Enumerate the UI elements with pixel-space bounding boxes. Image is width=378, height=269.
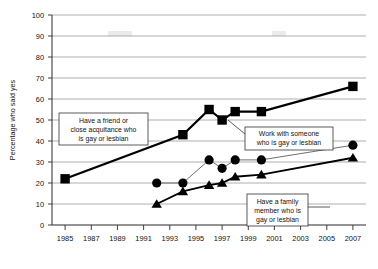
callout-friend-line-1: Have a friend or bbox=[79, 117, 129, 124]
callout-friend-acquaintance: Have a friend or close acquitance who is… bbox=[59, 113, 148, 145]
callout-family-line-2: member who is bbox=[254, 207, 301, 214]
x-tick-label: 1997 bbox=[214, 234, 230, 243]
y-tick-label: 10 bbox=[36, 200, 44, 209]
x-tick-label: 1985 bbox=[57, 234, 73, 243]
x-tick-label: 1999 bbox=[240, 234, 256, 243]
x-tick-label: 1987 bbox=[83, 234, 99, 243]
x-tick-label: 1989 bbox=[109, 234, 125, 243]
x-tick-label: 1993 bbox=[162, 234, 178, 243]
callout-work-line-1: Work with someone bbox=[259, 130, 320, 137]
x-tick-label: 2001 bbox=[266, 234, 282, 243]
y-tick-label: 80 bbox=[36, 53, 44, 62]
x-tick-label: 2005 bbox=[319, 234, 335, 243]
y-tick-label: 90 bbox=[36, 32, 44, 41]
callout-family-line-3: gay or lesbian bbox=[256, 216, 299, 224]
x-tick-label: 1991 bbox=[135, 234, 151, 243]
y-tick-label: 60 bbox=[36, 95, 44, 104]
callout-friend-line-2: close acquitance who bbox=[71, 126, 137, 134]
callout-family-line-1: Have a family bbox=[257, 198, 299, 206]
y-tick-label: 20 bbox=[36, 179, 44, 188]
x-tick-label: 1995 bbox=[188, 234, 204, 243]
callout-work-line-2: who is gay or lesbian bbox=[256, 139, 322, 147]
y-tick-label: 40 bbox=[36, 137, 44, 146]
line-chart: 100 90 80 70 60 50 40 30 20 10 0 bbox=[0, 0, 378, 269]
callout-friend-line-3: is gay or lesbian bbox=[79, 135, 129, 143]
y-tick-label: 50 bbox=[36, 116, 44, 125]
y-tick-label: 100 bbox=[32, 11, 44, 20]
y-axis-title: Percentage who said yes bbox=[8, 79, 17, 160]
y-tick-label: 70 bbox=[36, 74, 44, 83]
x-tick-label: 2007 bbox=[345, 234, 361, 243]
x-tick-label: 2003 bbox=[292, 234, 308, 243]
y-tick-label: 0 bbox=[40, 221, 44, 230]
y-tick-label: 30 bbox=[36, 158, 44, 167]
